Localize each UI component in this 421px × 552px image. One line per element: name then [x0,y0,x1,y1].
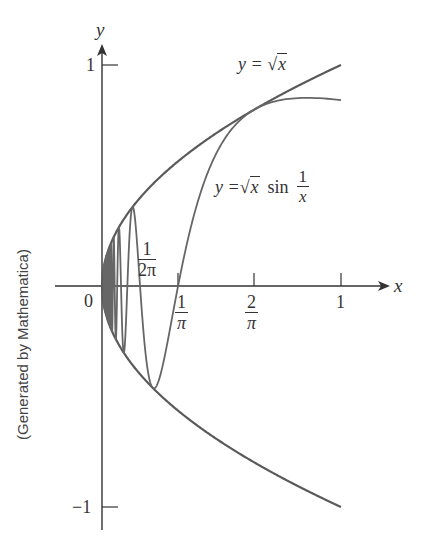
sqrt-symbol-icon: √ [267,54,277,74]
radicand: x [250,176,260,197]
frac-denominator: π [177,314,186,332]
radicand: x [277,53,287,74]
frac-numerator: 2 [245,293,258,311]
frac-numerator: 1 [297,168,310,185]
y-tick-label-1: 1 [86,56,95,74]
y-axis-label: y [96,20,104,39]
x-tick-label-2-over-pi: 2 π [245,293,258,332]
frac-denominator: x [299,188,307,205]
frac-numerator: 1 [175,293,188,311]
curve-neg-sqrt-x [102,286,341,507]
curve-label-prefix: y = [215,178,240,196]
x-axis-label: x [394,276,402,295]
frac-denominator: 2π [138,261,156,279]
chart-canvas [0,0,421,552]
curve-label-sqrt-x: y = √x [238,55,287,73]
sqrt-symbol-icon: √ [240,178,250,196]
x-tick-label-1-over-pi: 1 π [175,293,188,332]
frac-denominator: π [247,314,256,332]
one-over-x-fraction: 1 x [297,168,310,205]
y-tick-label-neg1: −1 [72,498,91,516]
curve-label-prefix: y = [238,54,267,74]
curve-label-sqrt-x-sin: y = √x sin 1 x [215,168,309,205]
x-tick-label-1-over-2pi: 1 2π [138,240,156,279]
origin-label: 0 [84,292,93,310]
frac-numerator: 1 [141,240,154,258]
mathematica-credit: (Generated by Mathematica) [14,249,31,440]
x-tick-label-1: 1 [336,293,345,311]
sin-text: sin [268,178,289,196]
